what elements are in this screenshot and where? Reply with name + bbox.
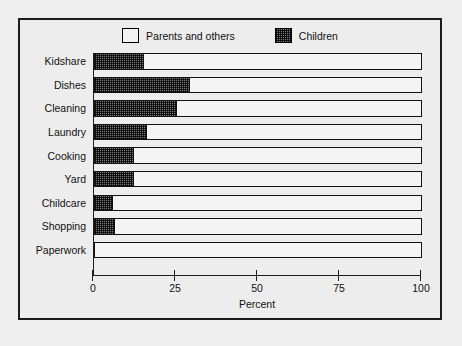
stacked-bar-yard[interactable]	[94, 171, 422, 188]
stacked-bar-cooking[interactable]	[94, 147, 422, 164]
bar-row: Yard	[94, 171, 422, 188]
x-axis-tick	[420, 270, 421, 281]
legend-item-children[interactable]: Children	[275, 28, 338, 43]
stacked-bar-childcare[interactable]	[94, 195, 422, 212]
chart-figure: Parents and others Children Kidshare Dis…	[18, 18, 442, 320]
category-label-shopping: Shopping	[42, 220, 86, 232]
x-axis-tick-label: 75	[333, 282, 345, 294]
bar-row: Dishes	[94, 77, 422, 94]
x-axis-tick-label: 0	[90, 282, 96, 294]
category-label-paperwork: Paperwork	[36, 244, 86, 256]
x-axis-tick-label: 100	[412, 282, 430, 294]
bar-row: Laundry	[94, 124, 422, 141]
category-label-kidshare: Kidshare	[45, 55, 86, 67]
stacked-bar-cleaning[interactable]	[94, 100, 422, 117]
bar-segment-children	[95, 148, 134, 163]
bar-segment-children	[95, 219, 115, 234]
legend-item-parents-and-others[interactable]: Parents and others	[122, 28, 235, 43]
legend-swatch-children-icon	[275, 28, 292, 43]
bar-row: Shopping	[94, 218, 422, 235]
x-axis-title: Percent	[93, 298, 421, 310]
x-axis-tick-label: 25	[169, 282, 181, 294]
legend-label-children: Children	[299, 30, 338, 42]
bar-row: Cleaning	[94, 100, 422, 117]
bar-segment-children	[95, 196, 113, 211]
category-label-yard: Yard	[65, 173, 86, 185]
legend-label-parents: Parents and others	[146, 30, 235, 42]
bar-row: Cooking	[94, 147, 422, 164]
stacked-bar-laundry[interactable]	[94, 124, 422, 141]
bar-segment-children	[95, 101, 177, 116]
bar-row: Kidshare	[94, 53, 422, 70]
stacked-bar-shopping[interactable]	[94, 218, 422, 235]
stacked-bar-kidshare[interactable]	[94, 53, 422, 70]
bar-segment-children	[95, 172, 134, 187]
x-axis-tick	[174, 270, 175, 281]
category-label-dishes: Dishes	[54, 79, 86, 91]
plot-area: Kidshare Dishes Cleaning Laundry Cooking	[93, 53, 422, 275]
x-axis-tick	[256, 270, 257, 281]
category-label-laundry: Laundry	[48, 126, 86, 138]
category-label-cleaning: Cleaning	[45, 102, 86, 114]
stacked-bar-paperwork[interactable]	[94, 242, 422, 259]
x-axis-tick	[338, 270, 339, 281]
chart-legend: Parents and others Children	[20, 28, 440, 43]
legend-swatch-parents-icon	[122, 28, 139, 43]
bar-row: Childcare	[94, 195, 422, 212]
category-label-childcare: Childcare	[42, 197, 86, 209]
bar-row: Paperwork	[94, 242, 422, 259]
x-axis-tick-label: 50	[251, 282, 263, 294]
stacked-bar-dishes[interactable]	[94, 77, 422, 94]
bar-segment-children	[95, 54, 144, 69]
category-label-cooking: Cooking	[47, 150, 86, 162]
bar-segment-children	[95, 125, 147, 140]
bar-segment-children	[95, 78, 190, 93]
x-axis-tick	[92, 270, 93, 281]
x-axis: 0255075100	[93, 275, 421, 276]
